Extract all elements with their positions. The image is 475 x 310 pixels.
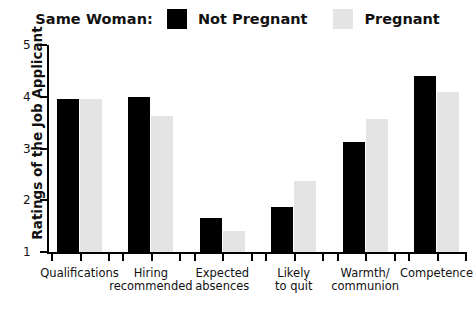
y-tick-4 [40, 96, 47, 98]
x-tick-0-1 [80, 254, 82, 261]
x-tick-2-0 [194, 254, 196, 261]
x-tick-2-2 [251, 254, 253, 261]
x-axis-label-0: Qualifications [40, 267, 118, 280]
bar-not-pregnant-5 [414, 76, 436, 252]
y-tick-2 [40, 199, 47, 201]
y-axis-title: Ratings of the Job Applicant [29, 18, 45, 248]
y-tick-label-5: 5 [23, 38, 33, 52]
y-tick-label-4: 4 [23, 90, 33, 104]
x-tick-4-1 [365, 254, 367, 261]
legend-entry-pregnant: Pregnant [333, 9, 439, 29]
bar-not-pregnant-0 [57, 99, 79, 252]
bar-not-pregnant-4 [343, 142, 365, 252]
bar-pregnant-2 [223, 231, 245, 252]
x-axis-line [47, 252, 467, 254]
bar-pregnant-3 [294, 181, 316, 252]
bar-pregnant-1 [151, 116, 173, 252]
legend-label-not-pregnant: Not Pregnant [198, 11, 307, 27]
x-tick-4-0 [337, 254, 339, 261]
x-tick-3-0 [265, 254, 267, 261]
x-axis-label-2: Expected absences [195, 267, 249, 293]
x-tick-1-1 [151, 254, 153, 261]
y-tick-label-3: 3 [23, 142, 33, 156]
bar-not-pregnant-2 [200, 218, 222, 252]
x-tick-0-0 [51, 254, 53, 261]
y-tick-label-1: 1 [23, 245, 33, 259]
y-axis-line [47, 45, 49, 254]
x-tick-3-2 [322, 254, 324, 261]
chart-legend: Same Woman: Not Pregnant Pregnant [0, 6, 475, 32]
legend-title: Same Woman: [35, 11, 153, 27]
x-axis-label-4: Warmth/ communion [331, 267, 399, 293]
x-tick-5-2 [465, 254, 467, 261]
x-tick-1-2 [179, 254, 181, 261]
x-tick-1-0 [122, 254, 124, 261]
bar-not-pregnant-3 [271, 207, 293, 252]
x-tick-2-1 [222, 254, 224, 261]
y-tick-3 [40, 148, 47, 150]
x-tick-5-1 [437, 254, 439, 261]
x-tick-0-2 [108, 254, 110, 261]
legend-entry-not-pregnant: Not Pregnant [167, 9, 307, 29]
y-tick-label-2: 2 [23, 193, 33, 207]
legend-swatch-not-pregnant [167, 9, 187, 29]
plot-area: 12345 QualificationsHiring recommendedEx… [47, 45, 467, 254]
x-axis-label-3: Likely to quit [275, 267, 313, 293]
bar-pregnant-0 [80, 99, 102, 252]
legend-label-pregnant: Pregnant [364, 11, 439, 27]
x-tick-3-1 [294, 254, 296, 261]
x-axis-label-1: Hiring recommended [109, 267, 192, 293]
y-tick-1 [40, 251, 47, 253]
bar-not-pregnant-1 [128, 97, 150, 252]
y-tick-5 [40, 44, 47, 46]
bar-pregnant-5 [437, 92, 459, 252]
bar-pregnant-4 [366, 119, 388, 252]
x-tick-4-2 [394, 254, 396, 261]
legend-swatch-pregnant [333, 9, 353, 29]
bar-chart-figure: Same Woman: Not Pregnant Pregnant Rating… [0, 0, 475, 310]
x-axis-label-5: Competence [400, 267, 473, 280]
x-tick-5-0 [408, 254, 410, 261]
